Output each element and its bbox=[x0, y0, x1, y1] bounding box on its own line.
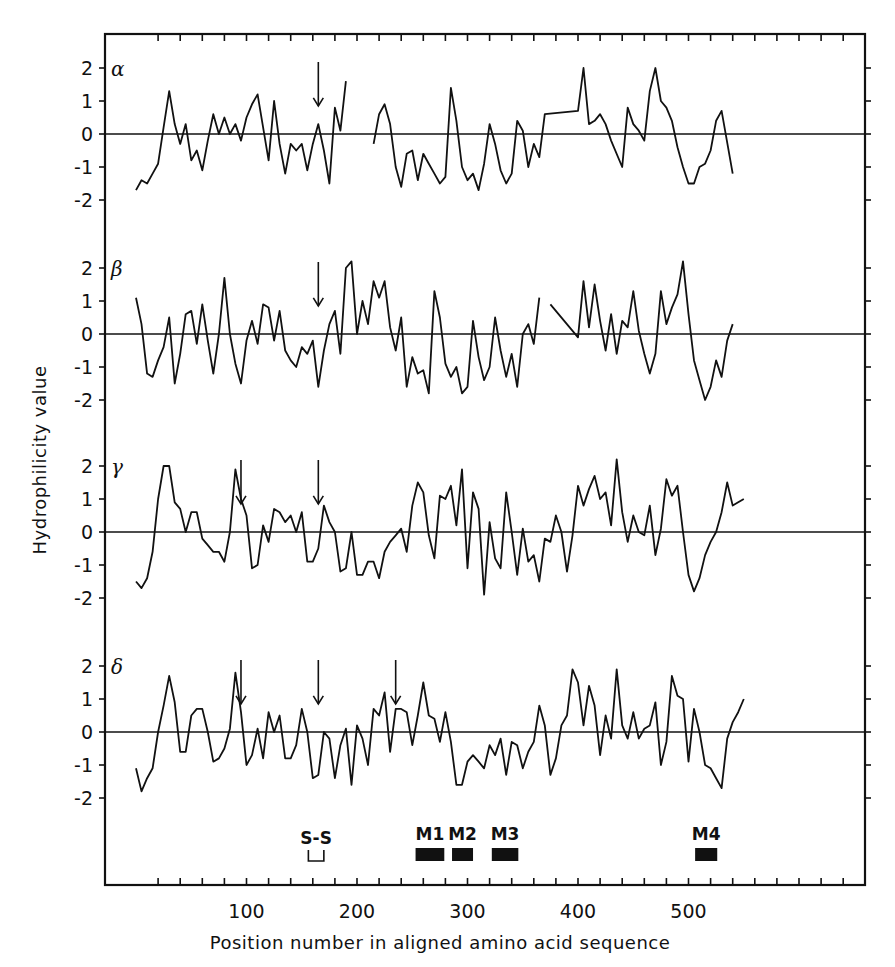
segment-bar bbox=[492, 848, 519, 861]
arrow-marker-icon bbox=[313, 262, 323, 306]
x-tick-label: 200 bbox=[339, 900, 375, 922]
y-tick-label: -2 bbox=[74, 587, 93, 609]
y-tick-label: -1 bbox=[74, 554, 93, 576]
panel-2: 210-1-2β bbox=[74, 257, 871, 411]
panel-3: 210-1-2γ bbox=[74, 455, 871, 609]
x-tick-label: 400 bbox=[560, 900, 596, 922]
y-tick-label: 1 bbox=[81, 688, 93, 710]
y-tick-label: 2 bbox=[81, 455, 93, 477]
x-tick-label: 500 bbox=[670, 900, 706, 922]
panel-1: 210-1-2α bbox=[74, 57, 871, 211]
y-tick-label: 2 bbox=[81, 257, 93, 279]
panel-label: δ bbox=[111, 655, 123, 679]
y-tick-label: -2 bbox=[74, 189, 93, 211]
hydrophilicity-trace bbox=[136, 459, 744, 594]
arrow-marker-icon bbox=[313, 660, 323, 704]
hydrophilicity-trace bbox=[136, 669, 744, 791]
y-tick-label: 0 bbox=[81, 123, 93, 145]
segment-label: M2 bbox=[448, 824, 477, 844]
y-tick-label: 0 bbox=[81, 721, 93, 743]
hydrophilicity-trace bbox=[136, 68, 733, 190]
y-tick-label: -1 bbox=[74, 754, 93, 776]
y-tick-label: 1 bbox=[81, 488, 93, 510]
membrane-annotations: S-SM1M2M3M4 bbox=[300, 824, 720, 861]
disulfide-bracket bbox=[308, 850, 323, 861]
y-tick-label: 1 bbox=[81, 290, 93, 312]
hydrophilicity-trace bbox=[136, 261, 733, 400]
segment-bar bbox=[695, 848, 717, 861]
y-tick-label: -2 bbox=[74, 787, 93, 809]
y-tick-label: 0 bbox=[81, 521, 93, 543]
annotation-m3: M3 bbox=[491, 824, 520, 861]
segment-label: M1 bbox=[416, 824, 445, 844]
x-axis-title: Position number in aligned amino acid se… bbox=[210, 932, 671, 953]
segment-bar bbox=[452, 848, 473, 861]
arrow-marker-icon bbox=[313, 460, 323, 504]
annotation-s-s: S-S bbox=[300, 828, 332, 861]
y-tick-label: -2 bbox=[74, 389, 93, 411]
panels: 210-1-2α210-1-2β210-1-2γ210-1-2δ bbox=[74, 57, 871, 809]
arrow-marker-icon bbox=[313, 62, 323, 106]
y-tick-label: 0 bbox=[81, 323, 93, 345]
panel-4: 210-1-2δ bbox=[74, 655, 871, 809]
y-tick-label: 2 bbox=[81, 57, 93, 79]
annotation-m1: M1 bbox=[416, 824, 445, 861]
arrow-marker-icon bbox=[391, 660, 401, 704]
y-axis-title: Hydrophilicity value bbox=[29, 366, 50, 555]
y-tick-label: -1 bbox=[74, 356, 93, 378]
x-tick-label: 300 bbox=[449, 900, 485, 922]
segment-label: M3 bbox=[491, 824, 520, 844]
y-tick-label: 2 bbox=[81, 655, 93, 677]
hydrophilicity-chart: 100200300400500 210-1-2α210-1-2β210-1-2γ… bbox=[0, 0, 895, 967]
x-tick-label: 100 bbox=[228, 900, 264, 922]
panel-label: γ bbox=[111, 455, 123, 479]
panel-label: β bbox=[110, 257, 123, 281]
panel-label: α bbox=[111, 57, 125, 81]
y-tick-label: 1 bbox=[81, 90, 93, 112]
segment-label: M4 bbox=[692, 824, 721, 844]
annotation-m2: M2 bbox=[448, 824, 477, 861]
segment-bar bbox=[416, 848, 445, 861]
x-tick-labels: 100200300400500 bbox=[228, 900, 706, 922]
segment-label: S-S bbox=[300, 828, 332, 848]
annotation-m4: M4 bbox=[692, 824, 721, 861]
y-tick-label: -1 bbox=[74, 156, 93, 178]
